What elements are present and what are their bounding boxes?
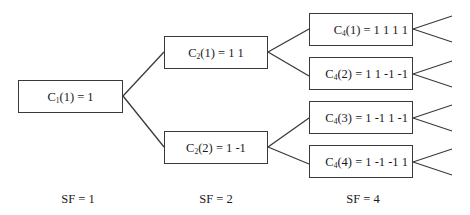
node-c2-2: C2(2) = 1 -1 <box>164 131 268 164</box>
node-label: C4(1) = 1 1 1 1 <box>334 24 408 38</box>
edge-c4-1-out-b <box>413 29 452 42</box>
node-label: C4(2) = 1 1 -1 -1 <box>325 68 408 82</box>
node-label: C2(1) = 1 1 <box>188 47 244 61</box>
node-label: C4(4) = 1 -1 -1 1 <box>325 156 408 170</box>
node-c1-1: C1(1) = 1 <box>18 80 123 113</box>
edge-c1-c2-1 <box>123 52 164 96</box>
edge-c2-1-c4-1 <box>268 29 309 52</box>
level-label-sf2: SF = 2 <box>199 192 232 207</box>
level-label-sf1: SF = 1 <box>61 192 94 207</box>
node-c2-1: C2(1) = 1 1 <box>164 36 268 69</box>
edge-c4-1-out-a <box>413 16 452 29</box>
node-c4-3: C4(3) = 1 -1 1 -1 <box>309 101 413 134</box>
node-label: C4(3) = 1 -1 1 -1 <box>325 112 408 126</box>
edge-c1-c2-2 <box>123 96 164 147</box>
node-c4-4: C4(4) = 1 -1 -1 1 <box>309 145 413 178</box>
edge-c4-4-out-a <box>413 149 452 162</box>
level-label-sf4: SF = 4 <box>346 192 379 207</box>
edge-c2-2-c4-4 <box>268 147 309 164</box>
edge-c2-2-c4-3 <box>268 118 309 147</box>
edge-c4-2-out-a <box>413 61 452 74</box>
edge-c4-2-out-b <box>413 74 452 87</box>
edge-c4-3-out-a <box>413 105 452 118</box>
edge-c4-4-out-b <box>413 162 452 175</box>
node-c4-1: C4(1) = 1 1 1 1 <box>309 13 413 46</box>
edge-c4-3-out-b <box>413 118 452 131</box>
node-c4-2: C4(2) = 1 1 -1 -1 <box>309 57 413 90</box>
edge-c2-1-c4-2 <box>268 52 309 76</box>
node-label: C2(2) = 1 -1 <box>186 142 246 156</box>
node-label: C1(1) = 1 <box>47 91 93 105</box>
